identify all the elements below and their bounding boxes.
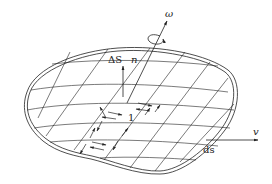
surface-diagram: ω ΔS n 1 v ds [0, 0, 272, 184]
circulation-arrows [80, 103, 160, 154]
ds-label: ds [203, 144, 215, 155]
surface-boundary [24, 47, 237, 174]
rotation-icon [148, 35, 163, 44]
omega-label: ω [165, 8, 173, 19]
normal-label: n [131, 54, 137, 65]
cell-label: 1 [128, 112, 134, 123]
velocity-label: v [253, 126, 259, 137]
delta-s-label: ΔS [108, 54, 122, 65]
